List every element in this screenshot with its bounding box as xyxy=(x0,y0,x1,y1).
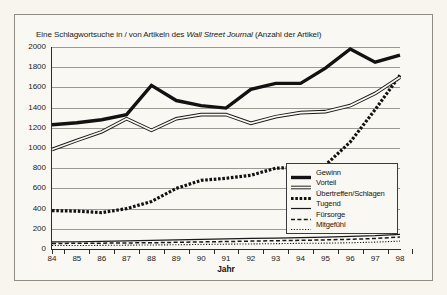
y-tick-label: 1000 xyxy=(6,143,46,152)
chart-legend: GewinnVorteilÜbertreffen/SchlagenTugendF… xyxy=(286,163,398,234)
legend-swatch-icon xyxy=(290,220,312,229)
legend-swatch-icon xyxy=(290,210,312,219)
x-axis-line xyxy=(51,249,401,250)
x-tick-label: 98 xyxy=(385,254,415,263)
y-tick-label: 800 xyxy=(6,163,46,172)
legend-item[interactable]: Vorteil xyxy=(290,178,393,189)
legend-item[interactable]: Fürsorge xyxy=(290,209,393,220)
legend-item[interactable]: Gewinn xyxy=(290,167,393,178)
title-text-after: (Anzahl der Artikel) xyxy=(253,30,322,39)
legend-item[interactable]: Übertreffen/Schlagen xyxy=(290,188,393,199)
y-tick-label: 0 xyxy=(6,244,46,253)
y-tick-label: 400 xyxy=(6,204,46,213)
y-tick-label: 200 xyxy=(6,224,46,233)
y-tick-label: 1200 xyxy=(6,123,46,132)
legend-swatch-icon xyxy=(290,189,312,198)
legend-swatch-icon xyxy=(290,168,312,177)
legend-label: Fürsorge xyxy=(316,210,345,219)
y-tick-label: 1600 xyxy=(6,82,46,91)
legend-label: Mitgefühl xyxy=(316,220,345,229)
y-tick-label: 1800 xyxy=(6,62,46,71)
legend-label: Übertreffen/Schlagen xyxy=(316,189,385,198)
legend-item[interactable]: Tugend xyxy=(290,199,393,210)
title-text-before: Eine Schlagwortsuche in / von Artikeln d… xyxy=(36,30,186,39)
legend-label: Tugend xyxy=(316,199,341,208)
series-line-vorteil xyxy=(52,77,400,149)
x-axis-title: Jahr xyxy=(52,264,400,274)
series-line-f-rsorge xyxy=(52,237,400,243)
legend-swatch-icon xyxy=(290,178,312,187)
legend-item[interactable]: Mitgefühl xyxy=(290,220,393,231)
title-text-italic: Wall Street Journal xyxy=(186,30,252,39)
legend-label: Gewinn xyxy=(316,168,341,177)
legend-swatch-icon xyxy=(290,199,312,208)
legend-label: Vorteil xyxy=(316,178,336,187)
chart-title: Eine Schlagwortsuche in / von Artikeln d… xyxy=(36,30,426,39)
y-tick-label: 2000 xyxy=(6,42,46,51)
y-tick-label: 600 xyxy=(6,183,46,192)
y-tick-label: 1400 xyxy=(6,103,46,112)
figure-canvas: Eine Schlagwortsuche in / von Artikeln d… xyxy=(0,0,447,295)
